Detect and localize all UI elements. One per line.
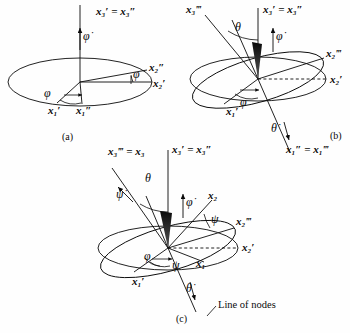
- panel-c-theta-arc: [140, 204, 168, 212]
- panel-c-x2-prime-label: x₂′: [242, 242, 254, 253]
- panel-c-caption: (c): [176, 314, 187, 324]
- panel-b-vertical-axis-label: x₃′ = x₃″: [263, 4, 303, 15]
- panel-c-theta-label: θ: [145, 172, 151, 184]
- panel-b-theta-dot-label: θ̇: [271, 122, 277, 134]
- euler-angle-figure: x₃′ = x₃″ φ̇ x₂″ x₂′ x₁′ x₁″ φ φ (a) x₃‴…: [0, 0, 350, 333]
- panel-c-phi-label: φ: [144, 250, 151, 262]
- panel-b-phi-dot-label: φ̇: [276, 30, 283, 42]
- panel-b-x1-doubleprime-label: x₁″ = x₁‴: [286, 144, 329, 155]
- panel-c-x1-prime-label: x₁′: [132, 276, 144, 287]
- panel-b-node-line: [258, 79, 290, 152]
- panel-c-theta-dot-label: θ̇: [186, 282, 192, 294]
- panel-c-psi-lower-label: ψ: [172, 259, 179, 271]
- panel-c-x2-body-label: x₂: [208, 190, 217, 201]
- panel-a-graphics: [8, 5, 152, 106]
- panel-c-x2-tripleprime-axis: [168, 228, 234, 248]
- panel-b-x2-tripleprime-axis: [258, 58, 324, 79]
- panel-c-psi-dot-label: ψ̇: [116, 188, 123, 200]
- panel-c-psi-arc-upper: [204, 214, 210, 228]
- panel-c-graphics: [95, 150, 242, 316]
- panel-b-theta-arc: [228, 31, 258, 40]
- panel-c-x3-tripleprime-label: x₃‴ = x₃: [108, 146, 145, 157]
- panel-a-phi-upper-label: φ: [133, 68, 140, 80]
- panel-b-theta-dot-arrow: [284, 122, 289, 140]
- panel-b-x2-tripleprime-label: x₂‴: [326, 48, 341, 59]
- panel-c-x1-body-label: x₁: [196, 258, 205, 269]
- panel-c-line-of-nodes-label: Line of nodes: [218, 300, 276, 311]
- panel-c-x3-tripleprime-axis: [112, 168, 168, 248]
- panel-b-theta-label: θ: [235, 21, 241, 33]
- panel-a-x1-doubleprime-label: x₁″: [76, 105, 91, 116]
- panel-a-x1-doubleprime-axis: [80, 82, 82, 104]
- panel-a-x2-prime-label: x₂′: [153, 78, 165, 89]
- panel-b-graphics: [187, 8, 330, 152]
- panel-b-x3-tripleprime-axis: [205, 15, 258, 79]
- panel-b-x1-prime-label: x₁′: [226, 106, 238, 117]
- panel-c-x2-tripleprime-label: x₂‴: [236, 216, 251, 227]
- panel-a-caption: (a): [62, 132, 73, 142]
- panel-c-vertical-axis-label: x₃′ = x₃″: [172, 144, 212, 155]
- panel-b-x3-tripleprime-label: x₃‴: [186, 4, 201, 15]
- panel-a-vertical-axis-label: x₃′ = x₃″: [96, 6, 136, 17]
- panel-b-caption: (b): [330, 131, 342, 141]
- panel-a-x1-prime-label: x₁′: [48, 105, 60, 116]
- panel-c-x1-prime-axis: [134, 248, 168, 272]
- panel-b-x2-prime-label: x₂′: [330, 74, 342, 85]
- panel-b-phi-label: φ: [240, 96, 247, 108]
- panel-c-psi-upper-label: ψ: [211, 213, 218, 225]
- panel-c-nodes-leader: [207, 306, 216, 316]
- panel-a-x2-doubleprime-label: x₂″: [149, 62, 164, 73]
- panel-a-phi-plane-label: φ: [44, 87, 51, 99]
- diagram-canvas: [0, 0, 350, 333]
- panel-c-phi-dot-label: φ̇: [186, 196, 193, 208]
- panel-a-phi-dot-label: φ̇: [83, 30, 90, 42]
